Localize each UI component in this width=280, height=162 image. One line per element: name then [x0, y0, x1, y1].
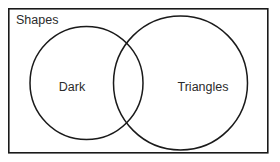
set-label-left: Dark	[59, 80, 86, 94]
venn-diagram-canvas: Shapes Dark Triangles	[0, 0, 280, 162]
set-label-right: Triangles	[178, 80, 229, 94]
universe-label: Shapes	[16, 13, 58, 27]
venn-diagram-figure: Shapes Dark Triangles	[0, 0, 280, 162]
